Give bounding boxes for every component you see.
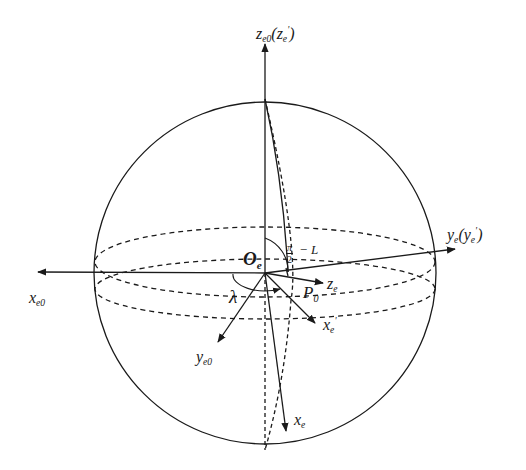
z-e0-axis-label: ze0(ze') [256, 25, 295, 44]
lambda-angle-arc [233, 274, 280, 291]
x-e-axis-label: xe [294, 412, 305, 430]
colatitude-angle-arc [265, 238, 288, 272]
z-e-axis-label: ze [327, 276, 338, 294]
y-e0-axis-label: ye0 [196, 349, 212, 367]
x-e0-axis [38, 272, 265, 273]
x-e-axis [265, 273, 286, 431]
y-e-axis-label: ye(ye') [447, 226, 482, 245]
colatitude-suffix: − L [299, 243, 318, 256]
colatitude-fraction: π 2 [286, 242, 293, 265]
meridian-dashed-arc [265, 99, 293, 450]
p0-label: P0 [303, 284, 318, 304]
y-e0-axis [218, 273, 265, 342]
origin-label: Oe [243, 249, 262, 271]
x-e-prime-axis-label: xe' [323, 316, 336, 335]
meridian-solid-arc [265, 99, 288, 272]
lambda-label: λ [229, 287, 237, 306]
x-e0-axis-label: xe0 [29, 290, 45, 308]
y-e-axis [265, 249, 455, 273]
